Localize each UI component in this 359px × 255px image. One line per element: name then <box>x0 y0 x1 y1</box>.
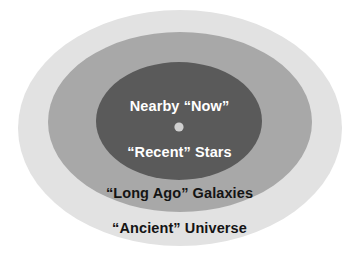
cosmic-distance-diagram: Nearby “Now” “Recent” Stars “Long Ago” G… <box>0 0 359 255</box>
nested-ellipses-graphic <box>0 0 359 255</box>
observer-dot-icon <box>174 122 183 131</box>
ellipse-recent-stars <box>96 62 262 180</box>
